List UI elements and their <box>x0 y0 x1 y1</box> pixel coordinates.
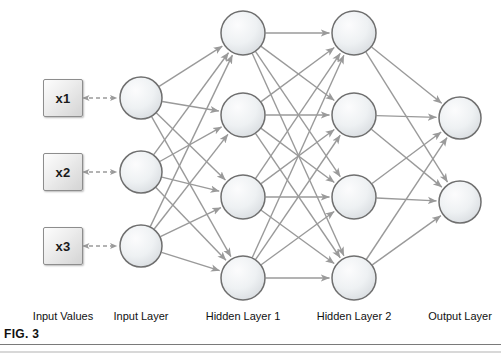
node-input-layer-3[interactable] <box>120 225 162 267</box>
connection-input-layer-2-to-hidden-layer-1-3 <box>162 252 220 270</box>
connection-hidden-layer-1-3-to-hidden-layer-2-0 <box>252 55 344 257</box>
input-value-box-x3[interactable]: x3 <box>43 227 83 265</box>
connection-hidden-layer-1-1-to-hidden-layer-2-2 <box>261 128 334 182</box>
node-hidden-layer-2-4[interactable] <box>332 256 376 300</box>
connection-hidden-layer-2-3-to-output-layer-1 <box>372 216 441 265</box>
connection-hidden-layer-2-2-to-output-layer-0 <box>372 132 441 184</box>
connection-input-layer-2-to-hidden-layer-1-1 <box>154 134 228 229</box>
node-hidden-layer-2-3[interactable] <box>332 175 376 219</box>
connection-hidden-layer-2-0-to-output-layer-0 <box>372 47 442 103</box>
label-output-layer: Output Layer <box>428 310 492 322</box>
input-value-label: x2 <box>56 165 71 180</box>
node-output-layer-1[interactable] <box>439 97 481 139</box>
node-hidden-layer-2-1[interactable] <box>332 11 376 55</box>
figure-3-neural-network: x1 x2 x3 Input Values Input Layer Hidden… <box>0 0 501 353</box>
connection-input-layer-1-to-hidden-layer-1-0 <box>154 53 229 155</box>
node-hidden-layer-2-2[interactable] <box>332 93 376 137</box>
connection-input-layer-0-to-hidden-layer-1-1 <box>162 102 219 111</box>
connection-hidden-layer-1-0-to-hidden-layer-2-3 <box>252 53 344 255</box>
input-value-label: x3 <box>56 239 71 254</box>
connection-input-layer-0-to-hidden-layer-1-0 <box>159 46 222 86</box>
node-hidden-layer-1-4[interactable] <box>221 256 265 300</box>
horizontal-divider <box>0 344 501 345</box>
label-input-values: Input Values <box>33 310 93 322</box>
label-hidden-layer-2: Hidden Layer 2 <box>317 310 392 322</box>
connection-hidden-layer-1-2-to-hidden-layer-2-0 <box>256 53 341 178</box>
connection-hidden-layer-1-2-to-hidden-layer-2-3 <box>261 210 334 263</box>
label-hidden-layer-1: Hidden Layer 1 <box>206 310 281 322</box>
input-value-arrows <box>89 98 117 246</box>
connection-hidden-layer-1-3-to-hidden-layer-2-2 <box>261 211 334 264</box>
connection-input-layer-2-to-hidden-layer-1-0 <box>150 55 232 227</box>
node-hidden-layer-1-3[interactable] <box>221 175 265 219</box>
connection-hidden-layer-1-0-to-hidden-layer-2-1 <box>261 46 334 100</box>
figure-caption: FIG. 3 <box>4 327 39 341</box>
node-input-layer-2[interactable] <box>120 151 162 193</box>
node-hidden-layer-1-2[interactable] <box>221 93 265 137</box>
node-output-layer-2[interactable] <box>439 181 481 223</box>
node-hidden-layer-1-1[interactable] <box>221 11 265 55</box>
connection-input-layer-0-to-hidden-layer-1-2 <box>156 113 225 180</box>
input-value-box-x1[interactable]: x1 <box>43 79 83 117</box>
input-value-label: x1 <box>56 91 71 106</box>
connection-hidden-layer-1-1-to-hidden-layer-2-3 <box>256 134 341 258</box>
input-value-box-x2[interactable]: x2 <box>43 153 83 191</box>
connection-edges <box>150 33 447 278</box>
connection-hidden-layer-2-1-to-output-layer-0 <box>376 116 436 118</box>
label-input-layer: Input Layer <box>113 310 168 322</box>
connection-input-layer-1-to-hidden-layer-1-3 <box>156 187 226 260</box>
connection-hidden-layer-1-1-to-hidden-layer-2-0 <box>261 48 334 102</box>
node-input-layer-1[interactable] <box>120 77 162 119</box>
connection-input-layer-1-to-hidden-layer-1-1 <box>160 127 222 162</box>
